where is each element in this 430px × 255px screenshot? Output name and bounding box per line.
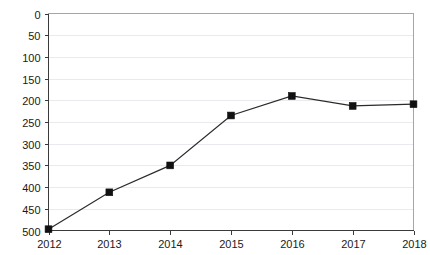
x-tick-label: 2018 (402, 238, 426, 250)
data-point-marker (228, 112, 235, 119)
chart-container: 050100150200250300350400450500 201220132… (0, 0, 430, 255)
y-tick-label: 450 (22, 204, 40, 216)
data-point-marker (288, 93, 295, 100)
y-tick-label: 100 (22, 52, 40, 64)
x-tick-label: 2013 (97, 238, 121, 250)
x-tick-label: 2016 (280, 238, 304, 250)
x-tick-label: 2014 (158, 238, 182, 250)
x-tick-label: 2015 (219, 238, 243, 250)
x-tick-label: 2012 (37, 238, 61, 250)
data-point-marker (45, 226, 52, 233)
data-point-marker (349, 103, 356, 110)
y-tick-label: 500 (22, 226, 40, 238)
y-tick-label: 300 (22, 139, 40, 151)
data-point-marker (106, 189, 113, 196)
x-tick-label: 2017 (341, 238, 365, 250)
line-chart: 050100150200250300350400450500 201220132… (0, 0, 430, 255)
y-tick-label: 400 (22, 182, 40, 194)
y-tick-label: 150 (22, 74, 40, 86)
y-tick-label: 250 (22, 117, 40, 129)
data-point-marker (167, 162, 174, 169)
data-point-marker (410, 101, 417, 108)
y-tick-label: 200 (22, 95, 40, 107)
y-tick-label: 0 (34, 9, 40, 21)
y-tick-label: 350 (22, 160, 40, 172)
chart-background (0, 0, 430, 255)
y-tick-label: 50 (28, 30, 40, 42)
